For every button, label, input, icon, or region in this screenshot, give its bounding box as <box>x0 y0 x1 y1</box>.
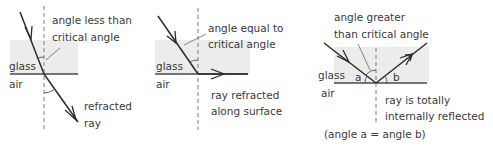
medium-top-label: glass <box>156 60 183 72</box>
angle-label-line-1: angle greater <box>334 11 406 23</box>
panel-equal-to-critical: angle equal to critical angle glass air … <box>155 8 283 130</box>
angle-label-line-2: critical angle <box>52 31 120 43</box>
outcome-label-line-1: ray is totally <box>385 94 450 106</box>
refraction-angle-arc <box>44 89 55 93</box>
outcome-label-line-2: ray <box>84 117 101 129</box>
angle-label-line-1: angle less than <box>52 14 132 26</box>
outcome-label-line-1: refracted <box>84 100 132 112</box>
angle-label-line-1: angle equal to <box>208 22 283 34</box>
angle-equality-note: (angle a = angle b) <box>324 128 426 140</box>
panel-less-than-critical: angle less than critical angle glass air… <box>9 6 132 132</box>
refracted-arrow-icon <box>65 106 76 120</box>
outcome-label-line-1: ray refracted <box>211 89 279 101</box>
panel-greater-than-critical: angle greater than critical angle glass … <box>318 11 484 140</box>
medium-bottom-label: air <box>156 78 170 90</box>
medium-bottom-label: air <box>321 87 335 99</box>
refracted-ray <box>44 74 78 122</box>
medium-bottom-label: air <box>9 78 23 90</box>
medium-top-label: glass <box>9 60 36 72</box>
angle-label-line-2: critical angle <box>208 38 276 50</box>
angle-b-label: b <box>393 71 400 83</box>
medium-top-label: glass <box>318 69 345 81</box>
angle-a-label: a <box>355 71 361 83</box>
refraction-diagram: angle less than critical angle glass air… <box>0 0 493 147</box>
angle-label-line-2: than critical angle <box>334 28 429 40</box>
outcome-label-line-2: internally reflected <box>385 110 484 122</box>
outcome-label-line-2: along surface <box>211 105 282 117</box>
